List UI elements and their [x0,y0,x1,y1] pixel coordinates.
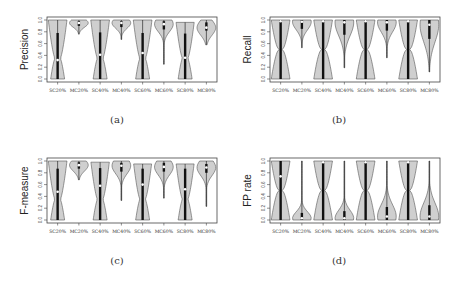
median-marker [78,22,81,25]
y-tick-label: 0.0 [261,75,266,82]
median-marker [99,184,102,187]
x-tick-label: MC60% [378,229,397,234]
iqr-box [56,169,58,220]
median-marker [141,52,144,55]
y-tick-label: 0.8 [261,169,266,176]
y-tick-label: 1.0 [261,16,266,23]
median-marker [56,190,59,193]
median-marker [205,166,208,169]
y-tick-label: 1.0 [261,157,266,164]
iqr-box [184,34,186,79]
x-tick-label: MC80% [420,229,439,234]
median-marker [322,20,325,23]
x-tick-label: SC60% [357,229,375,234]
iqr-box [141,169,143,220]
median-marker [279,20,282,23]
y-tick-label: 1.0 [38,16,43,23]
x-tick-label: SC80% [177,88,195,93]
iqr-box [120,163,122,172]
median-marker [428,215,431,218]
y-tick-label: 0.6 [38,40,43,47]
x-tick-label: MC20% [70,88,89,93]
y-tick-label: 0.2 [261,64,266,71]
x-tick-label: SC60% [357,88,375,93]
median-marker [407,161,410,164]
median-marker [364,20,367,23]
median-marker [120,22,123,25]
y-tick-label: 0.0 [38,75,43,82]
x-tick-label: SC20% [49,229,67,234]
x-tick-label: SC40% [92,88,110,93]
x-tick-label: MC60% [378,88,397,93]
median-marker [205,26,208,29]
iqr-box [386,207,388,220]
y-tick-label: 0.4 [261,52,266,59]
y-tick-label: 0.2 [261,205,266,212]
x-tick-label: SC20% [49,88,67,93]
median-marker [386,215,389,218]
x-tick-label: MC40% [112,229,131,234]
iqr-box [322,20,324,79]
x-tick-label: SC40% [315,229,333,234]
y-tick-label: 0.4 [38,52,43,59]
median-marker [56,59,59,62]
y-axis-label: Precision [19,29,30,70]
iqr-box [428,20,430,39]
chart-panel-recall: 0.00.20.40.60.81.0RecallSC20%MC20%SC40%M… [226,0,452,141]
iqr-box [99,168,101,220]
x-tick-label: SC80% [400,229,418,234]
y-tick-label: 0.0 [261,216,266,223]
y-axis-label: Recall [242,36,253,64]
y-axis-label: F-measure [19,166,30,215]
y-tick-label: 0.8 [261,28,266,35]
iqr-box [364,20,366,79]
median-marker [343,217,346,220]
x-tick-label: MC20% [293,229,312,234]
median-marker [407,20,410,23]
x-tick-label: MC20% [70,229,89,234]
median-marker [386,21,389,24]
median-marker [322,161,325,164]
y-tick-label: 0.4 [38,193,43,200]
y-tick-label: 0.2 [38,205,43,212]
iqr-box [184,169,186,220]
median-marker [184,56,187,59]
x-tick-label: MC20% [293,88,312,93]
chart-panel-fp-rate: 0.00.20.40.60.81.0FP rateSC20%MC20%SC40%… [226,141,452,282]
x-tick-label: MC80% [420,88,439,93]
median-marker [163,23,166,26]
y-tick-label: 0.8 [38,169,43,176]
median-marker [163,166,166,169]
iqr-box [56,33,58,79]
x-tick-label: MC40% [335,229,354,234]
x-tick-label: SC80% [400,88,418,93]
median-marker [279,175,282,178]
x-tick-label: SC80% [177,229,195,234]
x-tick-label: MC80% [197,88,216,93]
x-tick-label: SC20% [272,229,290,234]
y-tick-label: 0.8 [38,28,43,35]
y-tick-label: 0.4 [261,193,266,200]
median-marker [141,183,144,186]
iqr-box [407,20,409,79]
x-tick-label: MC60% [155,88,174,93]
median-marker [99,54,102,57]
median-marker [301,217,304,220]
x-tick-label: SC40% [92,229,110,234]
x-tick-label: MC80% [197,229,216,234]
x-tick-label: SC40% [315,88,333,93]
median-marker [428,23,431,26]
y-tick-label: 0.2 [38,64,43,71]
x-tick-label: MC40% [335,88,354,93]
x-tick-label: SC20% [272,88,290,93]
x-tick-label: MC60% [155,229,174,234]
y-axis-label: FP rate [242,174,253,207]
x-tick-label: SC60% [134,229,152,234]
y-tick-label: 0.6 [261,181,266,188]
iqr-box [322,161,324,220]
caption-c: (c) [97,255,137,266]
chart-panel-precision: 0.00.20.40.60.81.0PrecisionSC20%MC20%SC4… [0,0,226,141]
caption-b: (b) [319,114,359,125]
iqr-box [279,161,281,220]
caption-d: (d) [319,255,359,266]
